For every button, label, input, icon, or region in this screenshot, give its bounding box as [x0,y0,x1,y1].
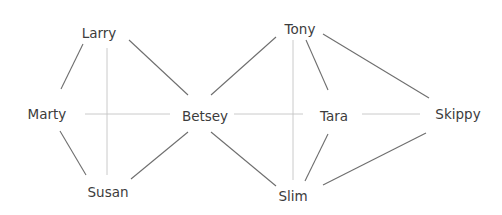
node-tara: Tara [319,108,348,124]
edge-susan-betsey [131,132,188,179]
edge-betsey-slim [211,132,276,186]
edge-skippy-slim [323,133,426,185]
node-slim: Slim [278,188,307,204]
edge-tony-tara [306,40,328,90]
node-tony: Tony [284,21,316,37]
edge-larry-marty [61,44,83,89]
node-larry: Larry [82,25,117,41]
node-skippy: Skippy [435,106,480,122]
node-betsey: Betsey [182,108,228,124]
nodes-layer: LarryMartySusanBetseyTonyTaraSkippySlim [28,21,481,204]
edge-tara-slim [305,134,328,181]
node-susan: Susan [88,184,129,200]
edges-layer [60,34,429,186]
node-marty: Marty [28,106,67,122]
edge-larry-betsey [129,40,188,95]
edge-betsey-tony [211,37,276,95]
edge-marty-susan [60,131,86,175]
edge-tony-skippy [323,34,429,98]
network-diagram: LarryMartySusanBetseyTonyTaraSkippySlim [0,0,502,215]
